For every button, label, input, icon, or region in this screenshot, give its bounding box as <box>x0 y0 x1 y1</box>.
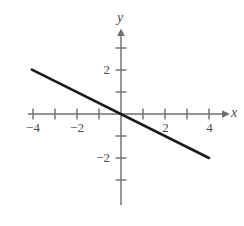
y-axis-label: y <box>117 11 123 25</box>
x-tick-label--2: −2 <box>67 121 87 134</box>
x-tick-label-2: 2 <box>158 121 173 134</box>
y-tick-label-2: 2 <box>97 63 110 76</box>
y-axis-arrow-icon <box>117 29 125 37</box>
coordinate-plane <box>0 0 244 226</box>
y-tick-label--2: −2 <box>88 151 110 164</box>
x-axis-label: x <box>231 106 237 120</box>
line-graph-figure: y x −4 −2 2 4 2 −2 <box>0 0 244 226</box>
x-tick-label--4: −4 <box>23 121 43 134</box>
x-axis-arrow-icon <box>222 110 230 118</box>
x-tick-label-4: 4 <box>202 121 217 134</box>
